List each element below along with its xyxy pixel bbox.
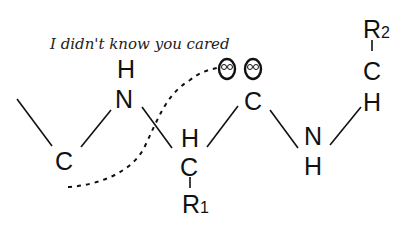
atom-n1: N <box>115 85 133 113</box>
atom-r2: R2 <box>363 15 390 43</box>
atom-ca2-h: H <box>363 88 381 116</box>
bond-left-chain <box>17 99 52 146</box>
bond-c-n1 <box>81 110 111 147</box>
atom-ca1: C <box>180 153 198 181</box>
atom-ca2: C <box>363 57 381 85</box>
eye-icon <box>228 65 233 70</box>
bond-n2-ca2 <box>330 107 361 145</box>
oxygen-left-with-eyes <box>219 59 235 79</box>
atom-carbonyl-c: C <box>244 87 262 115</box>
caption-text: I didn't know you cared <box>49 35 230 53</box>
atom-n2: N <box>304 122 322 150</box>
eye-icon <box>248 65 253 70</box>
atom-c-left: C <box>55 147 73 175</box>
oxygen-right-with-eyes <box>245 59 261 79</box>
eye-icon <box>254 65 259 70</box>
peptide-diagram: I didn't know you cared H N C H C R1 C N… <box>0 0 411 228</box>
atom-n1-h: H <box>117 55 135 83</box>
bond-ca1-carbonyl <box>207 106 238 147</box>
atom-r1: R1 <box>182 190 209 218</box>
bond-n1-ca1 <box>142 107 172 148</box>
bond-carbonyl-n2 <box>270 110 298 148</box>
eye-icon <box>222 65 227 70</box>
atom-ca1-h: H <box>181 124 199 152</box>
atom-n2-h: H <box>304 152 322 180</box>
